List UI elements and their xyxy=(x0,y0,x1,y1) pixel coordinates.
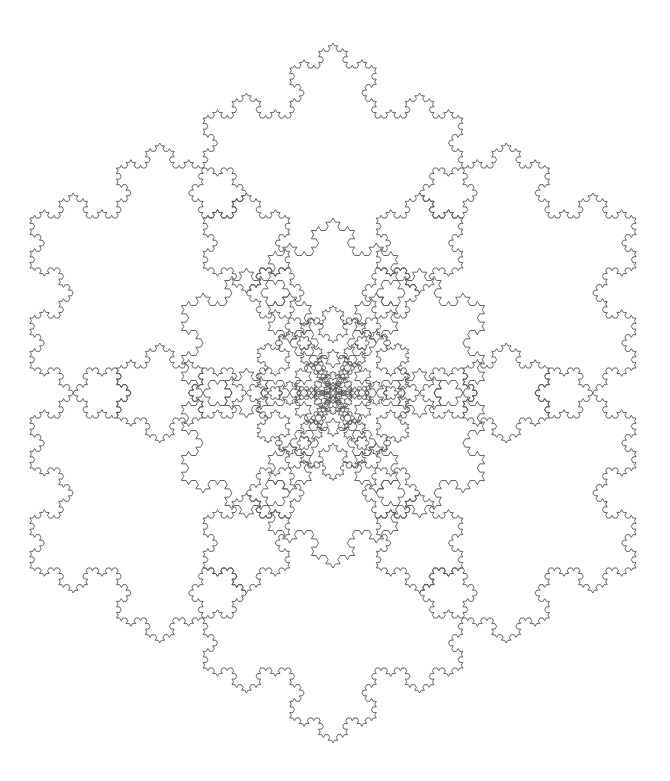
koch-snowflake xyxy=(268,218,398,368)
koch-snowflake xyxy=(355,368,485,518)
koch-snowflake xyxy=(181,268,311,418)
koch-snowflake xyxy=(181,368,311,518)
koch-snowflake xyxy=(268,418,398,568)
koch-snowflake xyxy=(376,343,636,643)
koch-snowflake-fractal xyxy=(0,0,670,781)
koch-snowflake xyxy=(355,268,485,418)
koch-snowflake xyxy=(376,143,636,443)
snowflake-group xyxy=(30,43,636,743)
koch-snowflake xyxy=(30,343,290,643)
koch-snowflake xyxy=(30,143,290,443)
koch-snowflake xyxy=(203,443,463,743)
koch-snowflake xyxy=(203,43,463,343)
